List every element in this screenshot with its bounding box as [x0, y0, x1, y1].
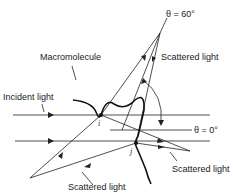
arrowhead-icon: [84, 163, 91, 168]
scattered-ray-i-back: [30, 115, 101, 178]
scattered-light-bottom-label: Scattered light: [68, 182, 126, 192]
arrowhead-icon: [48, 112, 54, 118]
incident-light-label: Incident light: [3, 92, 54, 102]
theta-60-pointer: [160, 18, 167, 33]
point-i-label: i: [98, 119, 100, 128]
scattered-light-right-label: Scattered light: [172, 164, 230, 174]
incident-leader: [42, 104, 44, 112]
arrowhead-icon: [48, 138, 54, 144]
arrowhead-icon: [158, 145, 165, 149]
point-j-label: j: [129, 147, 133, 156]
theta-60-label: θ = 60°: [166, 9, 195, 19]
scattered-right-leader: [170, 152, 177, 161]
angle-arc: [143, 80, 161, 123]
macromolecule-label: Macromolecule: [40, 52, 101, 62]
scattered-light-top-label: Scattered light: [161, 52, 219, 62]
scattered-ray-i-forward: [101, 115, 190, 151]
theta-0-label: θ = 0°: [194, 125, 218, 135]
arrowhead-icon: [158, 120, 164, 126]
scattered-ray-mid-60: [122, 33, 160, 130]
scattering-point-j: [134, 141, 138, 145]
arrowhead-icon: [58, 152, 63, 159]
macromolecule-leader: [72, 66, 76, 80]
scattering-point-i: [99, 113, 103, 117]
light-scattering-diagram: θ = 60° θ = 0° Macromolecule Incident li…: [0, 0, 233, 194]
